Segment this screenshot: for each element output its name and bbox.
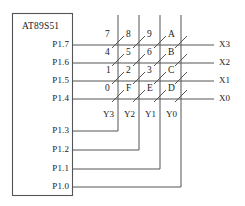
key-label-r2c1[interactable]: 2 (126, 66, 131, 76)
mcu-pin-p1-5: P1.5 (42, 76, 69, 85)
mcu-pin-p1-0: P1.0 (42, 182, 69, 191)
key-label-r0c0[interactable]: 7 (105, 30, 110, 40)
row-wires (73, 45, 215, 99)
key-label-r2c0[interactable]: 1 (106, 66, 111, 76)
row-output-x3: X3 (219, 40, 230, 49)
key-label-r2c2[interactable]: 3 (147, 66, 152, 76)
row-output-x0: X0 (219, 94, 230, 103)
key-label-r3c1[interactable]: F (126, 84, 131, 94)
row-output-x1: X1 (219, 76, 230, 85)
key-label-r0c3[interactable]: A (168, 30, 175, 40)
key-label-r3c3[interactable]: D (168, 84, 175, 94)
key-label-r1c1[interactable]: 5 (126, 48, 131, 58)
keypad-matrix-diagram: AT89S51 P1.7 P1.6 P1.5 P1.4 P1.3 P1.2 P1… (0, 0, 245, 206)
mcu-pin-p1-6: P1.6 (42, 58, 69, 67)
column-wires (118, 15, 181, 187)
scan-wires (73, 131, 182, 187)
key-label-r3c0[interactable]: 0 (105, 84, 110, 94)
column-label-y2: Y2 (124, 110, 135, 119)
mcu-pin-p1-3: P1.3 (42, 126, 69, 135)
key-label-r1c3[interactable]: B (168, 48, 174, 58)
column-label-y1: Y1 (145, 110, 156, 119)
key-label-r0c2[interactable]: 9 (147, 30, 152, 40)
key-label-r1c0[interactable]: 4 (105, 48, 110, 58)
key-label-r2c3[interactable]: C (168, 66, 174, 76)
key-label-r1c2[interactable]: 6 (147, 48, 152, 58)
mcu-pin-p1-1: P1.1 (42, 164, 69, 173)
mcu-pin-p1-4: P1.4 (42, 94, 69, 103)
row-output-x2: X2 (219, 58, 230, 67)
column-label-y3: Y3 (103, 110, 114, 119)
mcu-pin-p1-7: P1.7 (42, 40, 69, 49)
column-label-y0: Y0 (166, 110, 177, 119)
mcu-chip-label: AT89S51 (22, 22, 59, 32)
key-label-r0c1[interactable]: 8 (126, 30, 131, 40)
mcu-pin-p1-2: P1.2 (42, 145, 69, 154)
key-label-r3c2[interactable]: E (147, 84, 153, 94)
